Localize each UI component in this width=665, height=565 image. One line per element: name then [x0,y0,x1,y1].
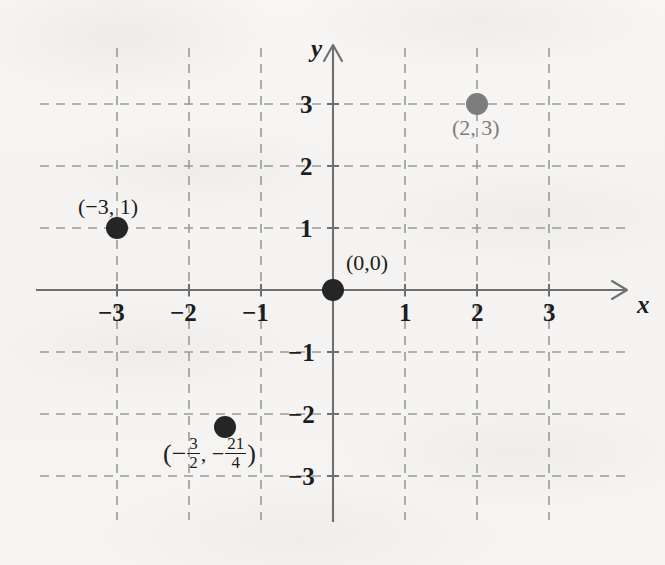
fraction-x-numerator: 3 [187,435,200,453]
point-label-2-3: (2, 3) [452,117,500,139]
y-tick-label--1: −1 [288,340,315,365]
coordinate-plane-graphic [0,0,665,565]
fraction-x-over-2: 3 2 [187,435,200,472]
y-axis-label: y [311,36,322,61]
figure-canvas: −3 −2 −1 1 2 3 3 2 1 −1 −2 −3 x y (−3, 1… [0,0,665,565]
x-tick-label--2: −2 [170,300,197,325]
data-point-neg3-1 [106,217,128,239]
y-tick-label--3: −3 [288,464,315,489]
y-tick-label-3: 3 [300,92,313,117]
fraction-y-numerator: 21 [225,435,246,453]
data-point-2-3 [466,93,488,115]
fraction-y-denominator: 4 [225,453,246,472]
fraction-x-denominator: 2 [187,453,200,472]
fraction-label-open: (− [163,439,186,468]
x-tick-label--3: −3 [98,300,125,325]
point-label-neg3over2-neg21over4: (− 3 2 , − 21 4 ) [163,436,256,473]
x-tick-label--1: −1 [242,300,269,325]
point-label-neg3-1: (−3, 1) [78,196,138,218]
fraction-label-close: ) [247,439,256,468]
y-tick-label-1: 1 [300,216,313,241]
y-tick-label--2: −2 [288,402,315,427]
point-label-origin: (0,0) [346,252,388,274]
x-tick-label-1: 1 [399,300,412,325]
fraction-y-over-4: 21 4 [225,435,246,472]
data-point-origin [322,279,344,301]
fraction-label-separator: , − [201,441,224,466]
x-tick-label-2: 2 [471,300,484,325]
x-tick-label-3: 3 [543,300,556,325]
x-axis-label: x [637,292,650,317]
y-tick-label-2: 2 [300,154,313,179]
